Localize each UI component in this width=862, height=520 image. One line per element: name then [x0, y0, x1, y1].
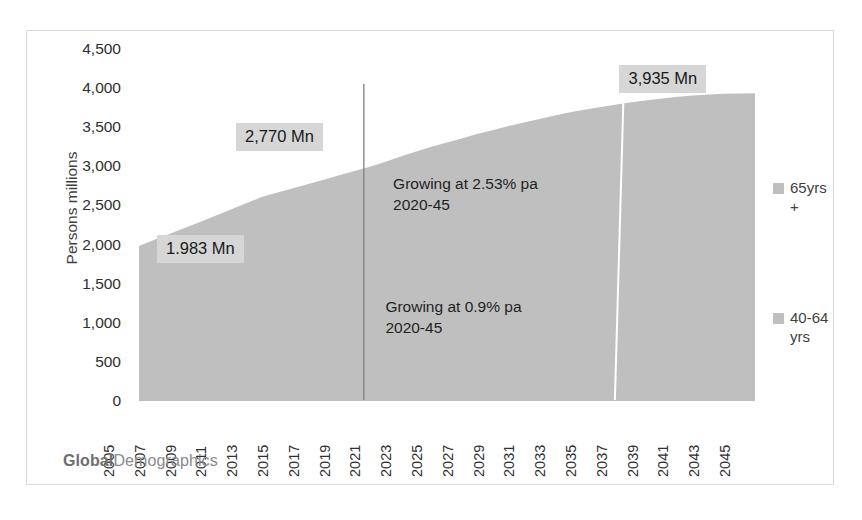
plot-area [139, 49, 755, 401]
x-axis-tick-label-text: 2035 [563, 445, 579, 477]
x-axis-tick-label-text: 2017 [286, 445, 302, 477]
y-axis-tick-label: 1,000 [57, 315, 121, 331]
x-axis-tick-label-text: 2041 [655, 445, 671, 477]
y-axis-tick-label: 2,000 [57, 237, 121, 253]
brand-logo: GlobalDemographics [63, 452, 218, 470]
x-axis-tick-label-text: 2031 [501, 445, 517, 477]
y-axis-tick-label: 3,000 [57, 159, 121, 175]
y-axis-tick-label: 1,500 [57, 276, 121, 292]
legend-swatch-icon [773, 313, 784, 324]
annotation-growth-65plus: Growing at 2.53% pa 2020-45 [393, 174, 538, 216]
annotation-line-1: Growing at 2.53% pa [393, 174, 538, 195]
y-axis-tick-label: 4,500 [57, 41, 121, 57]
x-axis: 2005200720092011201320152017201920212023… [139, 405, 755, 475]
brand-bold: Global [63, 452, 113, 469]
legend-label: 65yrs + [790, 179, 833, 217]
x-axis-tick-label-text: 2029 [471, 445, 487, 477]
legend-item-65-plus[interactable]: 65yrs + [773, 179, 833, 217]
y-axis-tick-label: 500 [57, 354, 121, 370]
x-axis-tick-label-text: 2019 [317, 445, 333, 477]
x-axis-tick-label-text: 2045 [717, 445, 733, 477]
y-axis-tick-label: 3,500 [57, 119, 121, 135]
y-axis-tick-label: 4,000 [57, 80, 121, 96]
legend-item-40-64[interactable]: 40-64 yrs [773, 309, 833, 347]
x-axis-tick-label-text: 2043 [686, 445, 702, 477]
x-axis-tick-label: 2045 [739, 443, 755, 475]
legend-swatch-icon [773, 183, 784, 194]
callout-1983: 1.983 Mn [157, 235, 244, 263]
brand-light: Demographics [113, 452, 217, 469]
x-axis-tick-label-text: 2025 [409, 445, 425, 477]
callout-3935: 3,935 Mn [619, 65, 706, 93]
chart-frame: Persons millions 4,5004,0003,5003,0002,5… [26, 30, 834, 485]
x-axis-tick-label-text: 2013 [224, 445, 240, 477]
x-axis-tick-label-text: 2015 [255, 445, 271, 477]
area-chart-svg [139, 49, 755, 401]
annotation-line-2: 2020-45 [393, 195, 538, 216]
x-axis-tick-label-text: 2021 [347, 445, 363, 477]
callout-2770: 2,770 Mn [236, 123, 323, 151]
y-axis: Persons millions 4,5004,0003,5003,0002,5… [45, 31, 121, 486]
annotation-line-1: Growing at 0.9% pa [385, 297, 521, 318]
x-axis-tick-label-text: 2037 [594, 445, 610, 477]
x-axis-tick-label-text: 2033 [532, 445, 548, 477]
legend-label: 40-64 yrs [790, 309, 833, 347]
y-axis-tick-label: 2,500 [57, 198, 121, 214]
x-axis-tick-label-text: 2039 [625, 445, 641, 477]
y-axis-tick-label: 0 [57, 393, 121, 409]
annotation-line-2: 2020-45 [385, 318, 521, 339]
annotation-growth-40-64: Growing at 0.9% pa 2020-45 [385, 297, 521, 339]
x-axis-tick-label-text: 2023 [378, 445, 394, 477]
x-axis-tick-label-text: 2027 [440, 445, 456, 477]
